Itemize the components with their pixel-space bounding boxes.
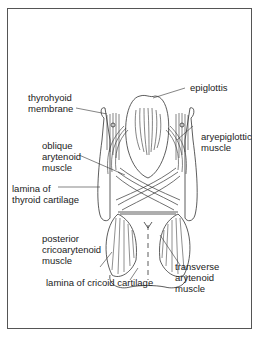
label-line: posterior — [42, 233, 101, 244]
label-line: muscle — [42, 162, 81, 173]
label-line: muscle — [201, 142, 252, 153]
label-line: muscle — [42, 255, 101, 266]
label-line: oblique — [42, 140, 81, 151]
pca-left — [106, 214, 136, 277]
label-line: lamina of — [12, 183, 79, 194]
label-aryepiglottic-muscle: aryepiglottic muscle — [201, 131, 252, 153]
aryepiglottic-hatch — [108, 126, 187, 174]
epiglottis-hatch — [135, 108, 161, 155]
label-epiglottis: epiglottis — [190, 82, 228, 93]
label-line: aryepiglottic — [201, 131, 252, 142]
epiglottis-outline — [126, 95, 169, 178]
label-line: arytenoid — [42, 151, 81, 162]
label-thyrohyoid-membrane: thyrohyoid membrane — [28, 92, 73, 114]
label-line: muscle — [175, 283, 219, 294]
label-posterior-cricoarytenoid-muscle: posterior cricoarytenoid muscle — [42, 233, 101, 266]
label-lamina-thyroid-cartilage: lamina of thyroid cartilage — [12, 183, 79, 205]
label-line: thyrohyoid — [28, 92, 73, 103]
label-line: thyroid cartilage — [12, 194, 79, 205]
label-line: arytenoid — [175, 272, 219, 283]
label-lamina-cricoid-cartilage: lamina of cricoid cartilage — [46, 277, 153, 288]
thyroid-lamina-right — [185, 108, 197, 221]
transverse-arytenoid — [118, 212, 178, 214]
label-transverse-arytenoid-muscle: transverse arytenoid muscle — [175, 261, 219, 294]
label-line: membrane — [28, 103, 73, 114]
label-line: cricoarytenoid — [42, 244, 101, 255]
label-line: transverse — [175, 261, 219, 272]
oblique-arytenoid-hatch — [116, 168, 180, 210]
label-oblique-arytenoid-muscle: oblique arytenoid muscle — [42, 140, 81, 173]
